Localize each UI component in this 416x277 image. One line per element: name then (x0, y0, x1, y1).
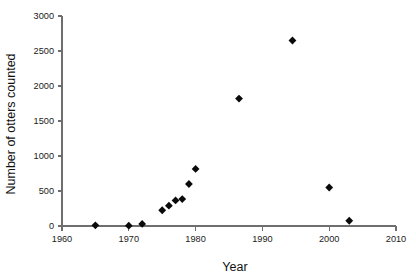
data-point (125, 222, 133, 230)
x-tick-group: 196019701980199020002010 (52, 226, 406, 244)
data-point (165, 202, 173, 210)
data-point (158, 206, 166, 214)
y-tick-group: 050010001500200025003000 (34, 11, 62, 231)
data-point (235, 95, 243, 103)
x-axis: 196019701980199020002010 (52, 226, 406, 244)
data-point (172, 197, 180, 205)
data-point (289, 37, 297, 45)
x-tick-label: 2000 (319, 234, 339, 244)
y-axis-title: Number of otters counted (4, 53, 18, 194)
data-point (178, 195, 186, 203)
y-tick-label: 1000 (34, 151, 54, 161)
y-tick-label: 500 (39, 186, 54, 196)
x-axis-title: Year (222, 260, 247, 274)
y-tick-label: 2000 (34, 81, 54, 91)
y-axis: 050010001500200025003000 (34, 11, 62, 231)
scatter-chart: 050010001500200025003000 196019701980199… (0, 0, 416, 277)
x-tick-label: 2010 (386, 234, 406, 244)
x-tick-label: 1980 (185, 234, 205, 244)
y-tick-label: 1500 (34, 116, 54, 126)
data-point (192, 165, 200, 173)
x-tick-label: 1960 (52, 234, 72, 244)
data-point (185, 180, 193, 188)
data-point (345, 217, 353, 225)
y-tick-label: 3000 (34, 11, 54, 21)
y-tick-label: 0 (49, 221, 54, 231)
x-tick-label: 1990 (252, 234, 272, 244)
data-point-group (92, 37, 354, 230)
plot-area: 050010001500200025003000 196019701980199… (0, 0, 416, 277)
data-point (92, 221, 100, 229)
data-point (325, 184, 333, 192)
x-tick-label: 1970 (119, 234, 139, 244)
y-tick-label: 2500 (34, 46, 54, 56)
